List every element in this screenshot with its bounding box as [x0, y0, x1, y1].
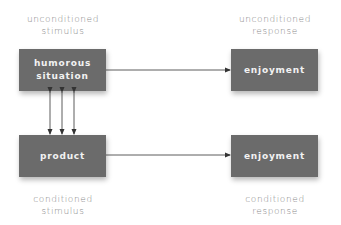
connector-layer	[0, 0, 341, 225]
